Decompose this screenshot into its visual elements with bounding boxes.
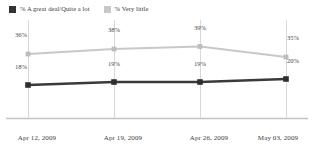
data-label-very-little-0: 36% [15, 31, 27, 39]
legend-swatch-dark-icon [9, 6, 16, 13]
legend-label-a-great-deal-quite-a-lot: % A great deal/Quite a lot [20, 5, 90, 13]
series-a-great-deal-quite-a-lot [25, 76, 289, 88]
data-label-very-little-2: 39% [194, 24, 206, 32]
data-point-marker [25, 82, 31, 88]
data-point-marker [197, 79, 203, 85]
data-label-a-great-deal-1: 19% [108, 60, 120, 68]
legend-swatch-light-icon [104, 6, 111, 13]
x-tick-label-3: May 03, 2009 [258, 134, 298, 143]
data-label-a-great-deal-2: 19% [194, 60, 206, 68]
data-label-very-little-1: 38% [108, 26, 120, 34]
gridlines-vertical [29, 20, 287, 118]
data-point-marker [198, 44, 203, 49]
x-axis: Apr 12, 2009 Apr 19, 2009 Apr 26, 2009 M… [0, 130, 313, 154]
chart-legend: % A great deal/Quite a lot % Very little [0, 0, 313, 18]
data-point-marker [111, 79, 117, 85]
plot-area: 36% 38% 39% 35% 18% 19% 19% 20% [0, 18, 313, 126]
legend-item-very-little[interactable]: % Very little [104, 5, 149, 13]
legend-item-a-great-deal-quite-a-lot[interactable]: % A great deal/Quite a lot [9, 5, 90, 13]
data-point-marker [112, 47, 117, 52]
x-tick-label-0: Apr 12, 2009 [18, 134, 56, 143]
data-label-a-great-deal-0: 18% [15, 63, 27, 71]
data-point-marker [26, 52, 31, 57]
line-chart: % A great deal/Quite a lot % Very little [0, 0, 313, 154]
x-tick-label-2: Apr 26, 2009 [190, 134, 228, 143]
legend-label-very-little: % Very little [115, 5, 149, 13]
series-very-little [26, 44, 289, 59]
data-label-very-little-3: 35% [287, 34, 299, 42]
x-tick-label-1: Apr 19, 2009 [104, 134, 142, 143]
data-label-a-great-deal-3: 20% [287, 57, 299, 65]
plot-svg [0, 18, 313, 126]
data-point-marker [283, 76, 289, 82]
